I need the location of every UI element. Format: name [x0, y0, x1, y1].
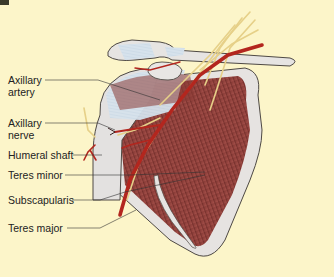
label-humeral-shaft: Humeral shaft: [8, 149, 73, 161]
label-line: Axillary: [8, 74, 42, 86]
label-teres-minor: Teres minor: [8, 169, 63, 181]
label-line: nerve: [8, 129, 42, 141]
label-line: Axillary: [8, 117, 42, 129]
coracoid-process: [148, 62, 182, 80]
leader-line-teres-major: [67, 210, 136, 228]
label-teres-major: Teres major: [8, 222, 63, 234]
label-subscapularis: Subscapularis: [8, 194, 74, 206]
label-axillary-artery: Axillary artery: [8, 74, 42, 98]
label-line: artery: [8, 86, 42, 98]
shoulder-illustration: [0, 0, 334, 277]
label-axillary-nerve: Axillary nerve: [8, 117, 42, 141]
